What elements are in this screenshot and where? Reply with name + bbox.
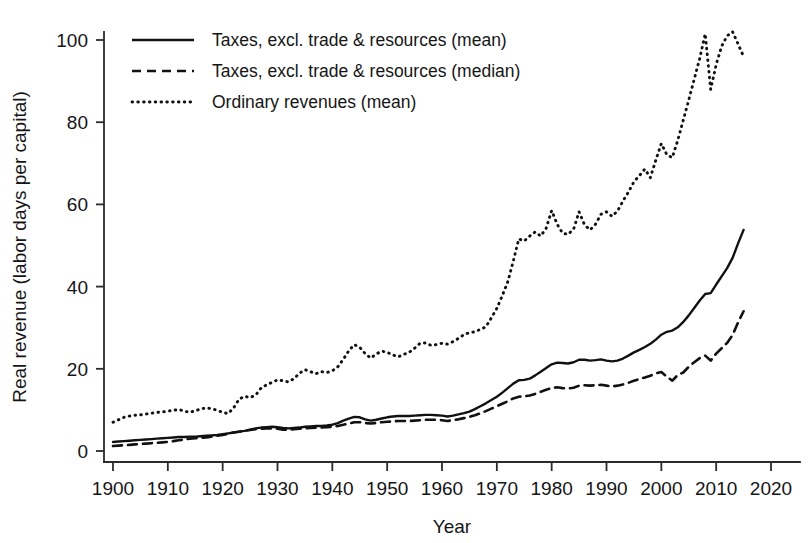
x-tick-label: 1990 [585, 478, 627, 499]
series-line-solid [113, 230, 744, 442]
chart-figure: 020406080100 190019101920193019401950196… [0, 0, 810, 543]
y-tick-label: 60 [67, 194, 88, 215]
legend-label: Taxes, excl. trade & resources (median) [212, 61, 520, 81]
x-tick-label: 1950 [366, 478, 408, 499]
x-tick-label: 1960 [421, 478, 463, 499]
y-tick-label: 20 [67, 359, 88, 380]
x-axis-title: Year [433, 516, 472, 537]
x-tick-label: 1930 [256, 478, 298, 499]
x-tick-label: 2010 [695, 478, 737, 499]
y-axis-ticks: 020406080100 [56, 30, 104, 462]
x-tick-label: 1940 [311, 478, 353, 499]
x-tick-label: 2020 [750, 478, 792, 499]
x-tick-label: 2000 [640, 478, 682, 499]
x-tick-label: 1900 [92, 478, 134, 499]
line-chart-canvas: 020406080100 190019101920193019401950196… [0, 0, 810, 543]
legend-label: Taxes, excl. trade & resources (mean) [212, 30, 507, 50]
y-tick-label: 40 [67, 277, 88, 298]
legend-label: Ordinary revenues (mean) [212, 92, 416, 112]
data-series-group [113, 32, 744, 446]
x-tick-label: 1970 [476, 478, 518, 499]
y-tick-label: 80 [67, 112, 88, 133]
y-tick-label: 0 [77, 441, 88, 462]
x-tick-label: 1910 [147, 478, 189, 499]
x-tick-label: 1980 [531, 478, 573, 499]
y-axis-title: Real revenue (labor days per capital) [9, 91, 30, 403]
y-tick-label: 100 [56, 30, 88, 51]
series-line-dashed [113, 311, 744, 446]
chart-legend: Taxes, excl. trade & resources (mean)Tax… [132, 30, 520, 112]
x-axis-ticks: 1900191019201930194019501960197019801990… [92, 462, 792, 499]
x-tick-label: 1920 [202, 478, 244, 499]
series-line-dotted [113, 32, 744, 422]
